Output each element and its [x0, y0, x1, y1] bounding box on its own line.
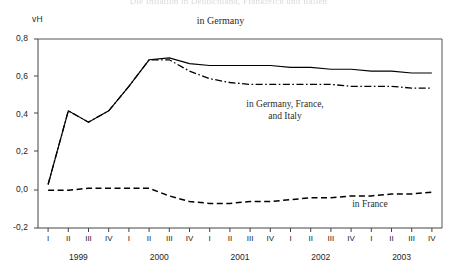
year-label: 1999: [53, 252, 103, 262]
year-label: 2000: [134, 252, 184, 262]
year-label: 2003: [377, 252, 427, 262]
x-tick-label: IV: [181, 234, 199, 243]
annotation-germany-france-italy: in Germany, France, and Italy: [222, 98, 348, 122]
y-tick-label: 0,0: [2, 184, 28, 194]
year-label: 2002: [296, 252, 346, 262]
x-tick-label: II: [140, 234, 158, 243]
y-tick-label: 0,4: [2, 109, 28, 119]
x-tick-label: I: [39, 234, 57, 243]
series-line-germany-france-italy: [48, 60, 432, 185]
x-tick-label: III: [160, 234, 178, 243]
y-tick-label: 0,2: [2, 146, 28, 156]
x-tick-label: II: [383, 234, 401, 243]
x-tick-marks: [48, 228, 432, 232]
x-tick-label: II: [302, 234, 320, 243]
x-tick-label: IV: [342, 234, 360, 243]
x-tick-label: I: [362, 234, 380, 243]
y-tick-label: 0,6: [2, 71, 28, 81]
x-tick-label: III: [241, 234, 259, 243]
x-tick-label: II: [221, 234, 239, 243]
x-tick-label: IV: [261, 234, 279, 243]
chart-figure: Die Inflation in Deutschland, Frankreich…: [0, 0, 457, 275]
y-tick-marks: [34, 39, 38, 228]
x-tick-label: I: [201, 234, 219, 243]
x-tick-label: IV: [100, 234, 118, 243]
data-series-group: [48, 58, 432, 204]
x-tick-label: III: [322, 234, 340, 243]
x-tick-label: III: [403, 234, 421, 243]
x-tick-label: I: [282, 234, 300, 243]
x-tick-label: IV: [423, 234, 441, 243]
y-tick-label: 0,8: [2, 33, 28, 43]
annotation-france: in France: [330, 198, 410, 210]
x-tick-label: I: [120, 234, 138, 243]
x-tick-label: III: [80, 234, 98, 243]
y-tick-label: -0,2: [2, 222, 28, 232]
year-label: 2001: [215, 252, 265, 262]
x-tick-label: II: [59, 234, 77, 243]
